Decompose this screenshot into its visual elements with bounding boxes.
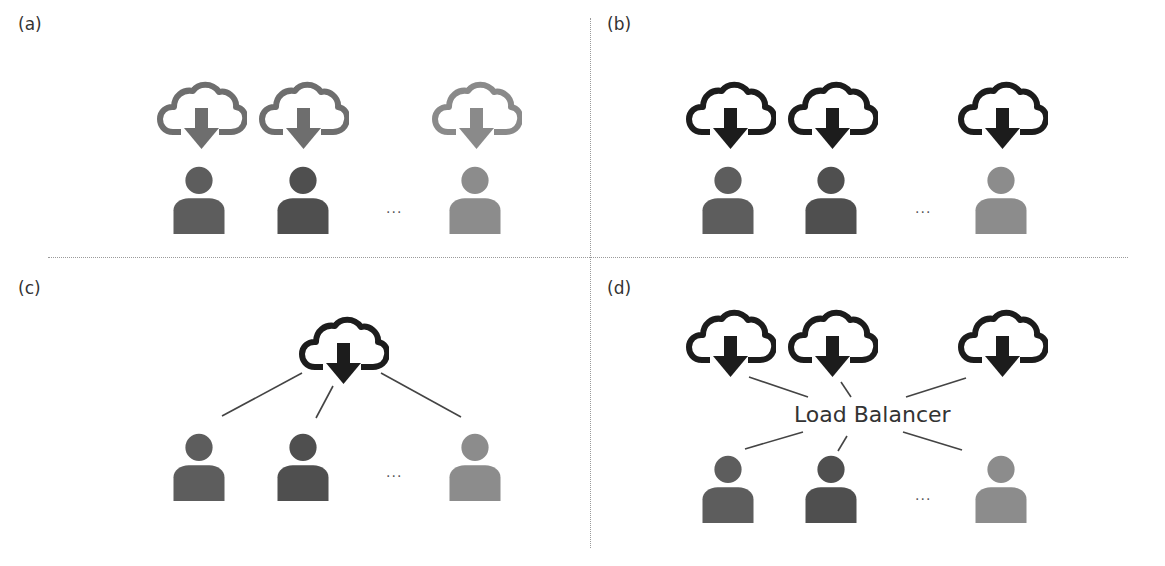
load-balancer-label: Load Balancer xyxy=(794,402,951,427)
user-icon xyxy=(697,455,759,523)
user-icon xyxy=(800,455,862,523)
cloud-download-icon xyxy=(958,308,1048,378)
user-icon xyxy=(444,433,506,501)
user-icon xyxy=(970,455,1032,523)
panel-label-d: (d) xyxy=(607,278,631,298)
ellipsis: ... xyxy=(915,487,931,503)
cloud-download-icon xyxy=(788,308,878,378)
cloud-download-icon xyxy=(686,308,776,378)
user-icon xyxy=(272,433,334,501)
user-icon xyxy=(168,433,230,501)
cloud-download-icon xyxy=(299,315,389,385)
ellipsis: ... xyxy=(386,464,402,480)
panel-label-c: (c) xyxy=(18,278,41,298)
